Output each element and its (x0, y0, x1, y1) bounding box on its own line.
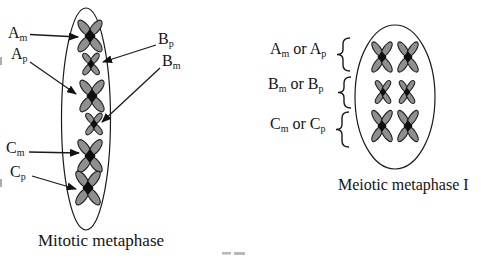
pointer-arrow-Bp (103, 45, 156, 62)
label-subscript: p (23, 53, 28, 64)
label-base: C (270, 115, 281, 132)
label-base: C (10, 163, 21, 180)
grouping-brace-B (338, 77, 351, 108)
label-group-B: Bm or Bp (268, 75, 323, 93)
mitotic-caption: Mitotic metaphase (38, 231, 164, 251)
label-subscript: m (173, 60, 181, 71)
label-Bm: Bm (162, 52, 180, 70)
label-subscript: m (17, 147, 25, 158)
label-subscript: p (320, 123, 325, 134)
label-subscript: p (321, 48, 326, 59)
label-or: or (286, 75, 307, 92)
label-group-C: Cm or Cp (270, 115, 325, 133)
chromosome-Cp (73, 169, 103, 207)
chromosome-A (370, 40, 395, 74)
scan-artifacts (0, 57, 245, 255)
chromosome-C (370, 109, 395, 144)
figure: Am Ap Bp Bm Cm Cp Am or Ap Bm or Bp Cm o… (0, 0, 481, 259)
page-number-fragment (234, 252, 245, 255)
label-subscript: p (169, 38, 174, 49)
meiotic-cell-membrane (355, 25, 435, 169)
chromosome-A (396, 40, 421, 74)
label-subscript: m (20, 32, 28, 43)
chromosome-B (374, 79, 392, 104)
pointer-arrow-Cp (32, 176, 76, 189)
label-subscript: p (21, 171, 26, 182)
label-base: C (6, 139, 17, 156)
label-or: or (289, 40, 309, 57)
chromosome-Bm (84, 112, 104, 136)
pointer-arrow-Cm (29, 152, 79, 153)
label-subscript: p (318, 83, 323, 94)
chromosome-Am (75, 18, 104, 54)
meiotic-cell-group (336, 25, 435, 169)
label-base: B (162, 52, 173, 69)
label-group-A: Am or Ap (270, 40, 326, 58)
scan-speck (0, 57, 2, 65)
label-base: B (308, 75, 319, 92)
pointer-arrow-Ap (30, 62, 76, 94)
label-Ap: Ap (11, 45, 28, 63)
figure-canvas (0, 0, 481, 259)
label-Cp: Cp (10, 163, 26, 181)
grouping-brace-A (337, 38, 350, 71)
mitotic-cell-group (29, 8, 160, 230)
label-base: A (270, 40, 282, 57)
pointer-arrow-Am (30, 35, 78, 38)
label-base: B (268, 75, 279, 92)
scan-speck (0, 179, 2, 187)
label-Am: Am (8, 24, 27, 42)
label-base: A (310, 40, 322, 57)
pointer-arrow-Bm (102, 68, 160, 122)
label-base: A (11, 45, 23, 62)
chromosome-Cm (75, 138, 104, 175)
chromosome-Ap (77, 78, 106, 114)
chromosome-C (396, 109, 421, 144)
chromosome-Bp (81, 52, 101, 76)
label-Bp: Bp (158, 30, 174, 48)
label-base: A (8, 24, 20, 41)
label-base: B (158, 30, 169, 47)
chromosome-B (398, 79, 416, 104)
label-Cm: Cm (6, 139, 24, 157)
label-or: or (288, 115, 309, 132)
label-base: C (310, 115, 321, 132)
page-number-fragment (222, 252, 231, 255)
grouping-brace-C (336, 112, 349, 147)
meiotic-caption: Meiotic metaphase I (338, 176, 469, 194)
